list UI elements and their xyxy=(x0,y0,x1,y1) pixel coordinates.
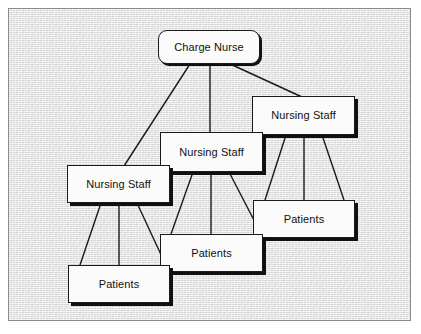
node-nursing-staff-left[interactable]: Nursing Staff xyxy=(67,165,170,203)
node-label: Patients xyxy=(191,248,232,259)
node-label: Charge Nurse xyxy=(174,42,244,53)
node-label: Nursing Staff xyxy=(179,147,244,158)
node-nursing-staff-center[interactable]: Nursing Staff xyxy=(160,132,263,172)
node-label: Patients xyxy=(284,214,325,225)
node-label: Nursing Staff xyxy=(86,179,151,190)
diagram-canvas: Charge Nurse Nursing Staff Nursing Staff… xyxy=(0,0,421,334)
node-charge-nurse[interactable]: Charge Nurse xyxy=(158,30,260,64)
node-patients-left[interactable]: Patients xyxy=(68,265,170,303)
node-patients-center[interactable]: Patients xyxy=(160,234,263,272)
node-label: Patients xyxy=(99,279,140,290)
node-nursing-staff-right[interactable]: Nursing Staff xyxy=(252,96,355,135)
node-label: Nursing Staff xyxy=(271,110,336,121)
node-patients-right[interactable]: Patients xyxy=(253,200,355,238)
